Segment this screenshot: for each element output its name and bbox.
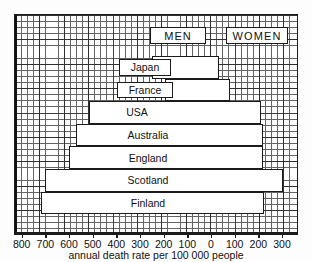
group-label-women: WOMEN [226,27,288,44]
category-label-france: France [117,82,173,99]
category-label-japan: Japan [119,59,171,76]
x-axis-line [14,233,298,235]
category-label-england: England [120,149,176,166]
plot-area: MEN WOMEN JapanFranceUSAAustraliaEngland… [14,14,298,233]
group-label-men: MEN [150,27,206,44]
category-label-usa: USA [115,104,159,121]
category-label-australia: Australia [118,127,178,144]
bar-france [165,79,230,102]
x-axis-caption: annual death rate per 100 000 people [0,249,312,261]
zero-axis-line [15,15,17,232]
category-label-scotland: Scotland [117,172,179,189]
category-label-finland: Finland [121,195,175,212]
chart-figure: MEN WOMEN JapanFranceUSAAustraliaEngland… [0,0,312,262]
